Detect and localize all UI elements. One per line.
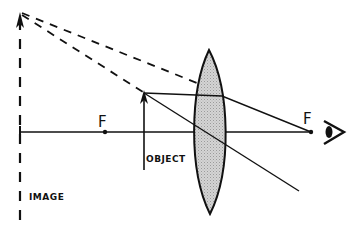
convex-lens: [194, 50, 226, 214]
focal-label-right: F: [303, 110, 312, 128]
virtual-ray-upper: [22, 13, 212, 89]
focal-label-left: F: [98, 113, 107, 131]
image-label: IMAGE: [29, 192, 64, 202]
eye-icon: [324, 121, 344, 144]
ray-parallel: [144, 93, 311, 132]
focal-point-right: [309, 130, 313, 134]
ray-diagram: F F OBJECT IMAGE: [0, 0, 358, 235]
object-label: OBJECT: [146, 154, 186, 164]
